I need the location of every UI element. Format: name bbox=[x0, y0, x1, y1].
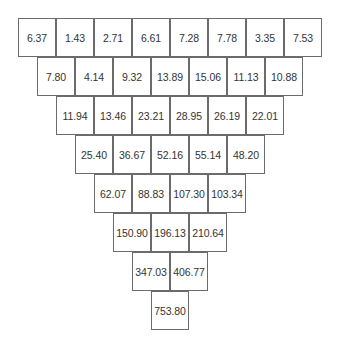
pyramid-cell: 1.43 bbox=[56, 18, 94, 57]
pyramid-cell: 88.83 bbox=[132, 174, 170, 213]
pyramid-cell: 210.64 bbox=[189, 213, 227, 252]
pyramid-cell: 11.94 bbox=[56, 96, 94, 135]
pyramid-cell: 347.03 bbox=[132, 252, 170, 291]
pyramid-cell: 406.77 bbox=[170, 252, 208, 291]
number-pyramid: 6.371.432.716.617.287.783.357.537.804.14… bbox=[0, 0, 346, 348]
pyramid-cell: 28.95 bbox=[170, 96, 208, 135]
pyramid-cell: 150.90 bbox=[113, 213, 151, 252]
pyramid-cell: 10.88 bbox=[265, 57, 303, 96]
pyramid-cell: 103.34 bbox=[208, 174, 246, 213]
pyramid-cell: 36.67 bbox=[113, 135, 151, 174]
pyramid-cell: 26.19 bbox=[208, 96, 246, 135]
pyramid-cell: 62.07 bbox=[94, 174, 132, 213]
pyramid-cell: 6.61 bbox=[132, 18, 170, 57]
pyramid-cell: 7.78 bbox=[208, 18, 246, 57]
pyramid-cell: 13.46 bbox=[94, 96, 132, 135]
pyramid-cell: 3.35 bbox=[246, 18, 284, 57]
pyramid-cell: 6.37 bbox=[18, 18, 56, 57]
pyramid-cell: 25.40 bbox=[75, 135, 113, 174]
pyramid-cell: 196.13 bbox=[151, 213, 189, 252]
pyramid-cell: 11.13 bbox=[227, 57, 265, 96]
pyramid-cell: 55.14 bbox=[189, 135, 227, 174]
pyramid-cell: 9.32 bbox=[113, 57, 151, 96]
pyramid-cell: 2.71 bbox=[94, 18, 132, 57]
pyramid-cell: 13.89 bbox=[151, 57, 189, 96]
pyramid-cell: 7.53 bbox=[284, 18, 322, 57]
pyramid-cell: 22.01 bbox=[246, 96, 284, 135]
pyramid-cell: 753.80 bbox=[151, 291, 189, 330]
pyramid-cell: 48.20 bbox=[227, 135, 265, 174]
pyramid-cell: 7.80 bbox=[37, 57, 75, 96]
pyramid-cell: 15.06 bbox=[189, 57, 227, 96]
pyramid-cell: 52.16 bbox=[151, 135, 189, 174]
pyramid-cell: 23.21 bbox=[132, 96, 170, 135]
pyramid-cell: 107.30 bbox=[170, 174, 208, 213]
pyramid-cell: 7.28 bbox=[170, 18, 208, 57]
pyramid-cell: 4.14 bbox=[75, 57, 113, 96]
